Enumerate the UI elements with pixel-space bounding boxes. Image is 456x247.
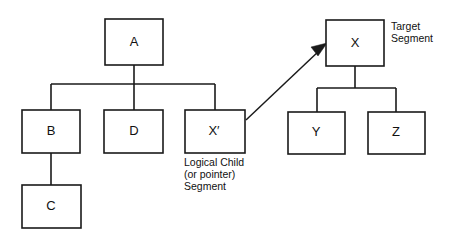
- right-tree-connectors: [317, 66, 396, 112]
- pointer-arrow-head-icon: [311, 43, 327, 56]
- caption-target-segment: Target Segment: [391, 20, 433, 44]
- node-c[interactable]: C: [22, 185, 81, 228]
- node-d-label: D: [129, 123, 138, 138]
- caption-target-line-1: Target: [391, 20, 420, 32]
- node-x-prime[interactable]: X′: [185, 110, 245, 153]
- caption-logical-child-segment: Logical Child (or pointer) Segment: [184, 156, 244, 192]
- diagram-root: A B D X′ C X Y Z: [0, 0, 456, 247]
- node-x-label: X: [351, 35, 360, 50]
- node-d[interactable]: D: [104, 110, 163, 153]
- diagram-canvas: A B D X′ C X Y Z: [0, 0, 456, 247]
- pointer-arrow-line: [246, 50, 320, 120]
- node-y[interactable]: Y: [288, 112, 345, 154]
- caption-logical-child-line-3: Segment: [184, 180, 226, 192]
- logical-pointer-arrow: [246, 43, 327, 120]
- node-z-label: Z: [392, 124, 400, 139]
- caption-logical-child-line-1: Logical Child: [184, 156, 244, 168]
- node-z[interactable]: Z: [368, 112, 425, 154]
- caption-target-line-2: Segment: [391, 32, 433, 44]
- node-y-label: Y: [312, 124, 321, 139]
- node-a[interactable]: A: [105, 19, 163, 65]
- node-a-label: A: [130, 34, 139, 49]
- caption-logical-child-line-2: (or pointer): [184, 168, 235, 180]
- node-x-prime-label: X′: [208, 123, 220, 138]
- node-b[interactable]: B: [22, 110, 80, 153]
- node-x[interactable]: X: [326, 20, 384, 66]
- node-c-label: C: [46, 198, 55, 213]
- node-b-label: B: [47, 123, 56, 138]
